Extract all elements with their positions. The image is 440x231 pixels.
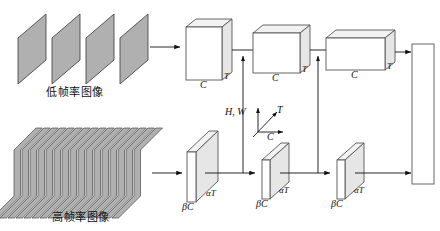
slow-pathway-input-frames [18,14,148,84]
slow-stage-2-time-label: T [302,64,307,74]
fast-stage-3-channel-label: βC [331,198,343,209]
slow-stage-2-channel-label: C [272,72,279,83]
architecture-diagram-svg [0,0,440,231]
output-block [412,44,434,184]
fast-stage-3-time-label: αT [354,185,364,195]
axis-t-label: T [277,104,283,115]
fast-pathway-input-frames [0,128,163,218]
slow-stage-1-time-label: T [224,71,229,81]
fast-stage-2-time-label: αT [279,185,289,195]
axis-hw-label: H, W [225,106,246,117]
fast-pathway-input-label: 高帧率图像 [52,208,110,224]
slow-stage-3-block [326,30,395,70]
slow-pathway-input-label: 低帧率图像 [46,83,104,99]
fast-stage-1-channel-label: βC [182,201,194,212]
slow-stage-3-channel-label: C [351,69,358,80]
fast-stage-1-time-label: αT [206,188,216,198]
slow-stage-1-channel-label: C [200,79,207,90]
diagram-canvas: 低帧率图像 高帧率图像 C T C T C T βC αT βC αT βC α… [0,0,440,231]
fast-stage-2-channel-label: βC [256,198,268,209]
axis-c-label: C [267,131,274,142]
slow-stage-3-time-label: T [387,61,392,71]
